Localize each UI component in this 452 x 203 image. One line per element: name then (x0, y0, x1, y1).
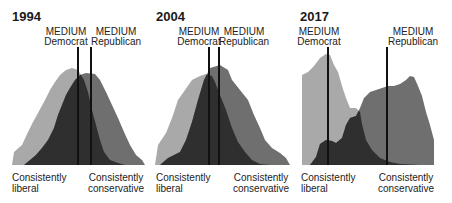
axis-label-liberal: Consistently liberal (301, 172, 355, 194)
panel-2017: 2017 MEDIUM Democrat MEDIUM Republican C… (0, 0, 452, 203)
axis-label-conservative: Consistently conservative (378, 172, 434, 194)
